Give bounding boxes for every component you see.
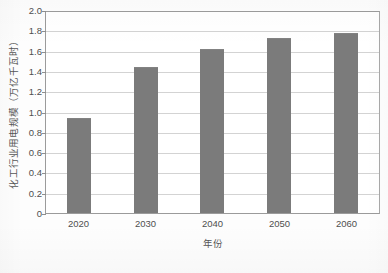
bar-slot — [113, 12, 180, 213]
y-tick-label: 1.8 — [29, 27, 42, 37]
y-tick-label: 0.8 — [29, 128, 42, 138]
y-tick-label: 0.6 — [29, 148, 42, 158]
plot-area — [45, 11, 380, 214]
bar-slot — [312, 12, 379, 213]
y-tick-label: 0.4 — [29, 169, 42, 179]
y-tick-mark — [42, 214, 46, 215]
bar[interactable] — [134, 67, 158, 213]
x-tick-label: 2030 — [112, 218, 179, 229]
bar[interactable] — [67, 118, 91, 213]
bar-series — [46, 12, 379, 213]
bar[interactable] — [334, 33, 358, 213]
x-tick-label: 2060 — [313, 218, 380, 229]
y-tick-label: 1.2 — [29, 87, 42, 97]
x-tick-label: 2020 — [45, 218, 112, 229]
y-axis-tick-labels: 00.20.40.60.81.01.21.41.61.82.0 — [17, 11, 42, 214]
x-axis-title: 年份 — [45, 236, 380, 250]
bar[interactable] — [200, 49, 224, 213]
bar-slot — [46, 12, 113, 213]
x-tick-label: 2050 — [246, 218, 313, 229]
bar-chart-figure: 化工行业用电规模（万亿千瓦时） 00.20.40.60.81.01.21.41.… — [0, 0, 388, 273]
y-tick-label: 1.4 — [29, 67, 42, 77]
bar-slot — [246, 12, 313, 213]
y-tick-label: 2.0 — [29, 6, 42, 16]
y-tick-label: 1.0 — [29, 108, 42, 118]
x-tick-label: 2040 — [179, 218, 246, 229]
bar[interactable] — [267, 38, 291, 213]
bar-slot — [179, 12, 246, 213]
y-tick-label: 0.2 — [29, 189, 42, 199]
y-tick-label: 1.6 — [29, 47, 42, 57]
x-axis-tick-labels: 20202030204020502060 — [45, 218, 380, 229]
